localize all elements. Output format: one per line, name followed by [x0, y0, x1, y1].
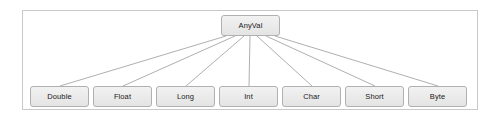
node-int-label: Int	[244, 92, 253, 101]
node-long[interactable]: Long	[156, 86, 215, 107]
node-double[interactable]: Double	[30, 86, 89, 107]
node-float[interactable]: Float	[93, 86, 152, 107]
node-char-label: Char	[303, 92, 320, 101]
node-long-label: Long	[177, 92, 194, 101]
node-float-label: Float	[114, 92, 131, 101]
node-int[interactable]: Int	[219, 86, 278, 107]
node-char[interactable]: Char	[282, 86, 341, 107]
node-byte-label: Byte	[430, 92, 445, 101]
node-anyval-label: AnyVal	[239, 21, 263, 30]
node-anyval[interactable]: AnyVal	[221, 15, 280, 36]
node-double-label: Double	[47, 92, 71, 101]
node-short-label: Short	[365, 92, 383, 101]
node-short[interactable]: Short	[345, 86, 404, 107]
node-byte[interactable]: Byte	[408, 86, 467, 107]
class-diagram: AnyVal Double Float Long Int Char Short …	[0, 0, 501, 121]
